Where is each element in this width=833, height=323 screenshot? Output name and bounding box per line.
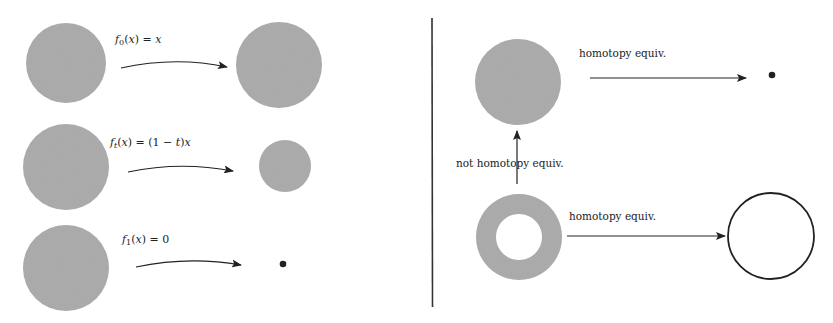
target-point-2: [769, 72, 776, 79]
label-homotopy-bottom: homotopy equiv.: [569, 210, 656, 222]
target-point-1: [280, 261, 287, 268]
row-shrink: ft(x) = (1 − t)x: [23, 124, 311, 210]
source-disk-1: [26, 23, 106, 103]
annulus: [476, 194, 562, 280]
source-disk-2: [23, 124, 109, 210]
label-not-homotopy: not homotopy equiv.: [456, 157, 564, 169]
row-collapse: f1(x) = 0: [23, 225, 286, 311]
panel-divider: [432, 18, 433, 307]
disk-top: [475, 39, 561, 125]
label-ft: ft(x) = (1 − t)x: [109, 136, 192, 150]
target-disk-2: [259, 140, 311, 192]
label-homotopy-top: homotopy equiv.: [579, 47, 666, 59]
target-disk-1: [236, 22, 322, 108]
circle-outline: [728, 193, 814, 279]
label-f0: f0(x) = x: [114, 33, 162, 47]
row-identity: f0(x) = x: [26, 22, 322, 108]
curved-arrow-1: [121, 62, 227, 68]
diagram-svg: f0(x) = x ft(x) = (1 − t)x f1(x) = 0: [0, 0, 833, 323]
homotopy-diagram: f0(x) = x ft(x) = (1 − t)x f1(x) = 0: [0, 0, 833, 323]
curved-arrow-2: [128, 166, 233, 172]
source-disk-3: [23, 225, 109, 311]
right-panel: homotopy equiv. not homotopy equiv. homo…: [455, 39, 814, 280]
left-panel: f0(x) = x ft(x) = (1 − t)x f1(x) = 0: [23, 22, 322, 311]
label-f1: f1(x) = 0: [121, 233, 169, 247]
curved-arrow-3: [136, 261, 241, 267]
